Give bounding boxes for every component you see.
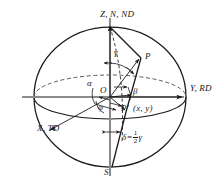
- angle-beta-label: β: [133, 87, 138, 96]
- angle-gamma-group: [104, 63, 134, 74]
- sphere-figure: Z, N, ND Y, RD X, TD S P O P' (x, y) γ α…: [0, 0, 224, 192]
- meridian-arc-dashed: [110, 27, 123, 142]
- angle-gamma-label: γ: [114, 48, 118, 57]
- angle-alpha-label: α: [87, 79, 92, 88]
- gamma-symbol: γ: [138, 132, 142, 142]
- z-axis-label: Z, N, ND: [100, 10, 134, 19]
- point-p-label: P: [145, 52, 151, 61]
- equals-symbol: =: [126, 132, 132, 142]
- point-o-label: O: [100, 86, 107, 95]
- x-axis-label: X, TD: [37, 124, 60, 133]
- sphere-diagram-canvas: [0, 0, 224, 192]
- angle-phi-label: φ: [98, 103, 103, 112]
- angle-beta-arc: [128, 87, 130, 100]
- point-p-prime-coords: (x, y): [133, 104, 153, 113]
- south-pole-label: S: [104, 168, 109, 177]
- angle-gamma-tick-right: [126, 67, 134, 74]
- y-axis-label: Y, RD: [190, 84, 212, 93]
- point-p-prime-label: P': [121, 104, 129, 113]
- delta-equation: δ=12γ: [122, 130, 142, 145]
